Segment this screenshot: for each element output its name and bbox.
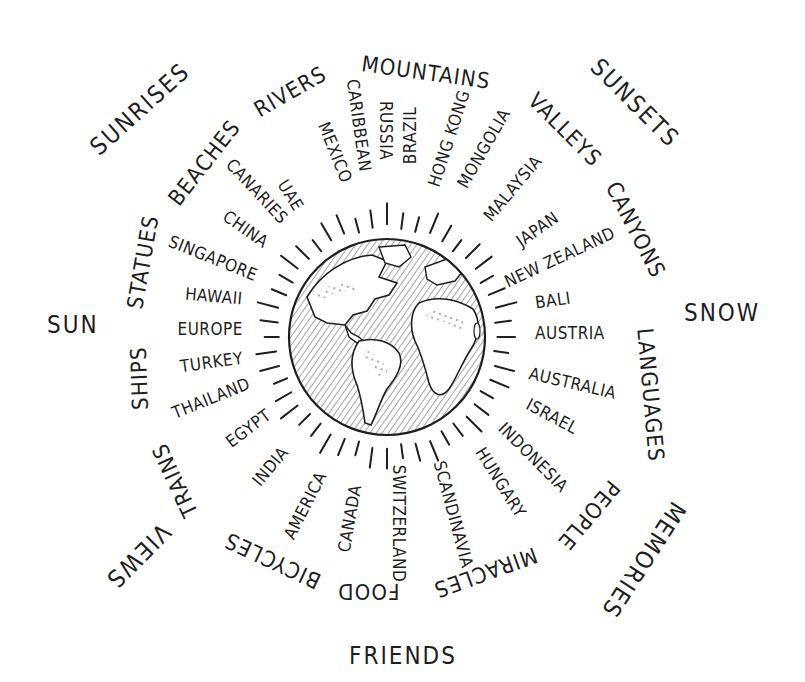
country-switzerland: SWITZERLAND bbox=[390, 464, 407, 582]
country-europe: EUROPE bbox=[178, 321, 243, 338]
moment-snow: SNOW bbox=[684, 301, 760, 325]
moment-sun: SUN bbox=[47, 313, 99, 337]
country-austria: AUSTRIA bbox=[535, 325, 605, 342]
country-brazil: BRAZIL bbox=[402, 106, 419, 163]
country-russia: RUSSIA bbox=[377, 100, 394, 159]
country-hawaii: HAWAII bbox=[184, 285, 243, 307]
moment-friends: FRIENDS bbox=[349, 644, 457, 668]
word-wheel-illustration: MEXICOCARIBBEANRUSSIABRAZILHONG KONGMONG… bbox=[0, 0, 805, 682]
feature-food: FOOD bbox=[337, 580, 400, 602]
globe-icon bbox=[287, 237, 487, 437]
feature-ships: SHIPS bbox=[128, 346, 152, 411]
country-bali: BALI bbox=[534, 289, 572, 311]
